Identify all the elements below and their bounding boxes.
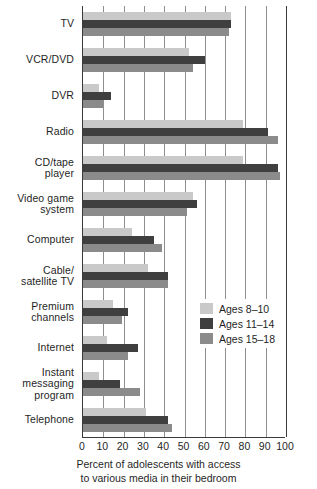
category-label-line: DVR	[0, 90, 74, 102]
legend-item: Ages 15–18	[200, 331, 275, 346]
bar	[83, 56, 205, 64]
bar	[83, 236, 154, 244]
x-axis-title-line: to various media in their bedroom	[0, 472, 317, 486]
plot-area	[82, 6, 285, 438]
legend: Ages 8–10Ages 11–14Ages 15–18	[198, 299, 278, 348]
category-label: DVR	[0, 90, 74, 102]
category-label-line: Telephone	[0, 414, 74, 426]
bar	[83, 380, 120, 388]
legend-item: Ages 11–14	[200, 316, 275, 331]
bar-group	[83, 222, 285, 258]
bar	[83, 344, 138, 352]
bar	[83, 136, 278, 144]
x-tick-30: 30	[137, 440, 149, 453]
bar	[83, 244, 162, 252]
bar	[83, 300, 113, 308]
bar	[83, 28, 229, 36]
x-axis-title: Percent of adolescents with accessto var…	[0, 458, 317, 485]
category-label-line: player	[0, 168, 74, 180]
category-label-line: Radio	[0, 126, 74, 138]
category-label: Cable/satellite TV	[0, 265, 74, 288]
bar	[83, 128, 268, 136]
category-label: Telephone	[0, 414, 74, 426]
x-tick-90: 90	[259, 440, 271, 453]
bar-group	[83, 114, 285, 150]
bar	[83, 156, 243, 164]
bar-group	[83, 6, 285, 42]
bar	[83, 372, 99, 380]
category-label: VCR/DVD	[0, 54, 74, 66]
bar	[83, 200, 197, 208]
legend-label: Ages 11–14	[219, 318, 274, 330]
category-label: Video gamesystem	[0, 193, 74, 216]
bar	[83, 308, 128, 316]
bar-group	[83, 42, 285, 78]
x-axis-title-line: Percent of adolescents with access	[0, 458, 317, 472]
category-label: Computer	[0, 234, 74, 246]
legend-swatch-icon	[200, 318, 213, 329]
bar	[83, 264, 148, 272]
bar-group	[83, 402, 285, 438]
category-label: Internet	[0, 342, 74, 354]
x-tick-0: 0	[79, 440, 85, 453]
bar-group	[83, 186, 285, 222]
x-tick-10: 10	[96, 440, 108, 453]
bar	[83, 424, 172, 432]
x-tick-60: 60	[198, 440, 210, 453]
bar	[83, 20, 231, 28]
bar	[83, 12, 231, 20]
category-label-line: Internet	[0, 342, 74, 354]
bar	[83, 84, 99, 92]
bar	[83, 164, 278, 172]
category-label-line: VCR/DVD	[0, 54, 74, 66]
bar-group	[83, 150, 285, 186]
category-label: TV	[0, 18, 74, 30]
legend-item: Ages 8–10	[200, 301, 275, 316]
bar	[83, 48, 189, 56]
bar	[83, 92, 111, 100]
bar	[83, 280, 168, 288]
x-tick-80: 80	[239, 440, 251, 453]
category-label: CD/tapeplayer	[0, 157, 74, 180]
category-label-line: channels	[0, 312, 74, 324]
category-label: Premiumchannels	[0, 301, 74, 324]
legend-swatch-icon	[200, 303, 213, 314]
gridline-100	[286, 6, 287, 437]
category-axis-labels: TVVCR/DVDDVRRadioCD/tapeplayerVideo game…	[0, 6, 78, 438]
bar	[83, 208, 187, 216]
bar-group	[83, 78, 285, 114]
bar	[83, 64, 193, 72]
bar	[83, 192, 193, 200]
x-tick-40: 40	[157, 440, 169, 453]
category-label-line: Computer	[0, 234, 74, 246]
category-label-line: system	[0, 204, 74, 216]
x-tick-70: 70	[218, 440, 230, 453]
bar-chart: TVVCR/DVDDVRRadioCD/tapeplayerVideo game…	[0, 0, 317, 489]
category-label-line: TV	[0, 18, 74, 30]
bar	[83, 272, 168, 280]
x-axis-tick-labels: 0102030405060708090100	[0, 440, 317, 456]
bar	[83, 316, 122, 324]
bar	[83, 352, 128, 360]
category-label: Instantmessagingprogram	[0, 367, 74, 402]
bar	[83, 172, 280, 180]
bar	[83, 388, 140, 396]
x-tick-20: 20	[117, 440, 129, 453]
legend-label: Ages 8–10	[219, 303, 269, 315]
bar-group	[83, 258, 285, 294]
category-label-line: program	[0, 390, 74, 402]
bar	[83, 408, 146, 416]
category-label: Radio	[0, 126, 74, 138]
category-label-line: satellite TV	[0, 276, 74, 288]
bar	[83, 228, 132, 236]
legend-label: Ages 15–18	[219, 333, 275, 345]
bar	[83, 416, 168, 424]
x-tick-100: 100	[276, 440, 294, 453]
bar	[83, 100, 103, 108]
bar	[83, 336, 107, 344]
x-tick-50: 50	[178, 440, 190, 453]
legend-swatch-icon	[200, 333, 213, 344]
bar-group	[83, 366, 285, 402]
bar	[83, 120, 243, 128]
bar-groups	[83, 6, 285, 437]
